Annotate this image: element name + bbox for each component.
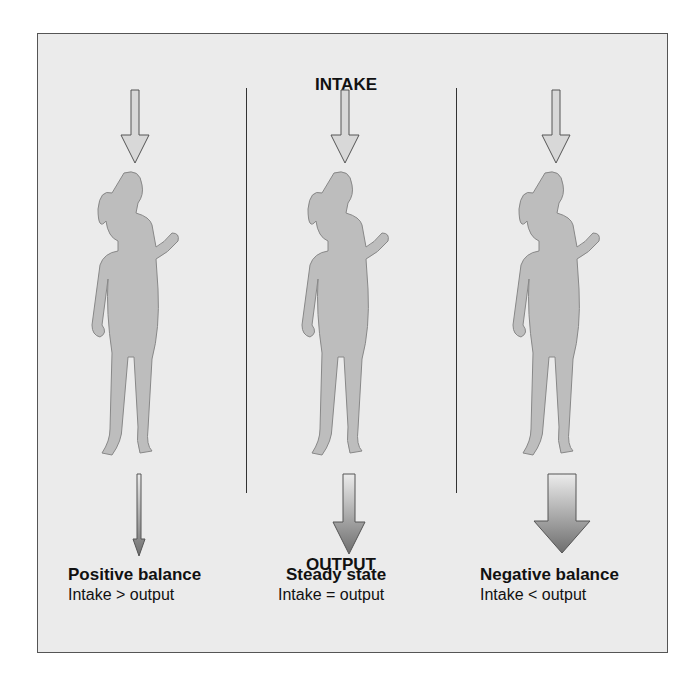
panel-negative: Negative balance Intake < output [480,565,619,604]
panel-subtitle: Intake > output [68,585,201,604]
panel-title: Positive balance [68,565,201,585]
panel-positive: Positive balance Intake > output [68,565,201,604]
panel-title: Steady state [278,565,386,585]
panel-subtitle: Intake < output [480,585,619,604]
panel-title: Negative balance [480,565,619,585]
panel-steady: Steady state Intake = output [278,565,386,604]
intake-arrows [121,90,570,163]
panel-subtitle: Intake = output [278,585,386,604]
